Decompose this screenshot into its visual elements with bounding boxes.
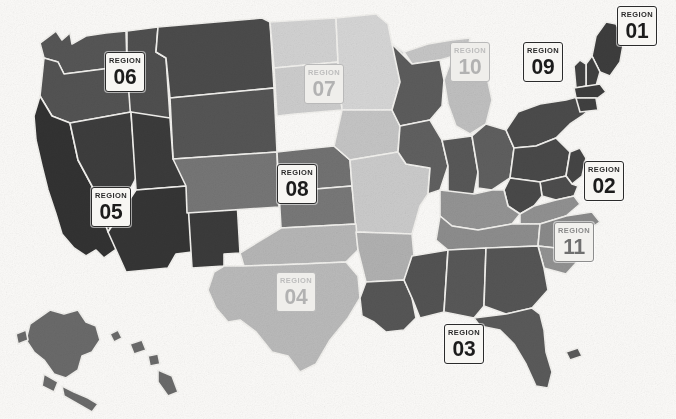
- region-badge-01-word: REGION: [621, 11, 653, 18]
- region-badge-05[interactable]: REGION 05: [91, 187, 131, 227]
- region-badge-04-word: REGION: [280, 277, 312, 284]
- region-badge-04-number: 04: [285, 285, 308, 307]
- region-badge-11-number: 11: [563, 235, 585, 257]
- region-badge-08-word: REGION: [281, 169, 313, 176]
- region-badge-10-word: REGION: [454, 47, 486, 54]
- region-badge-06-word: REGION: [109, 57, 141, 64]
- region-badge-07-number: 07: [313, 77, 336, 99]
- region-badge-06-number: 06: [114, 65, 137, 87]
- region-badge-09-number: 09: [532, 55, 555, 77]
- region-badge-07-word: REGION: [308, 69, 340, 76]
- us-regions-map: REGION 01 REGION 02 REGION 03 REGION 04 …: [0, 0, 676, 419]
- region-badge-03[interactable]: REGION 03: [444, 324, 484, 364]
- region-badge-10-number: 10: [459, 55, 482, 77]
- region-badge-02[interactable]: REGION 02: [584, 161, 624, 201]
- region-badge-08[interactable]: REGION 08: [277, 164, 317, 204]
- region-badge-05-number: 05: [100, 200, 123, 222]
- region-badge-11-word: REGION: [558, 227, 590, 234]
- region-badge-10[interactable]: REGION 10: [450, 42, 490, 82]
- region-badge-08-number: 08: [286, 177, 309, 199]
- region-badge-11[interactable]: REGION 11: [554, 222, 594, 262]
- region-badge-06[interactable]: REGION 06: [105, 52, 145, 92]
- region-badge-04[interactable]: REGION 04: [276, 272, 316, 312]
- region-badge-01-number: 01: [626, 19, 649, 41]
- region-badge-01[interactable]: REGION 01: [617, 6, 657, 46]
- region-badge-02-number: 02: [593, 174, 616, 196]
- region-badge-03-word: REGION: [448, 329, 480, 336]
- region-badge-05-word: REGION: [95, 192, 127, 199]
- region-badge-07[interactable]: REGION 07: [304, 64, 344, 104]
- region-badge-09[interactable]: REGION 09: [523, 42, 563, 82]
- region-badge-03-number: 03: [453, 337, 476, 359]
- region-badge-02-word: REGION: [588, 166, 620, 173]
- region-badge-09-word: REGION: [527, 47, 559, 54]
